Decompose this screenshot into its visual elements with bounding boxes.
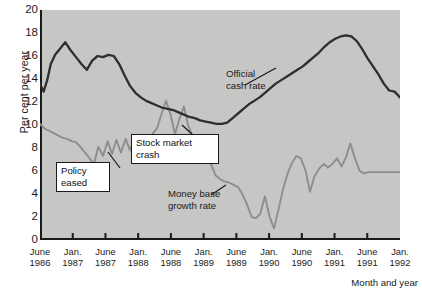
y-tick-label: 16 xyxy=(14,50,38,62)
y-tick-label: 2 xyxy=(14,211,38,223)
y-tick-label: 0 xyxy=(14,234,38,246)
y-tick-label: 4 xyxy=(14,188,38,200)
x-tick-label: Jan. 1989 xyxy=(193,246,214,268)
x-tick-label: Jan. 1987 xyxy=(62,246,83,268)
x-tick-label: June 1991 xyxy=(357,246,378,268)
y-tick-label: 12 xyxy=(14,96,38,108)
x-tick-label: June 1989 xyxy=(226,246,247,268)
x-tick-label: June 1987 xyxy=(95,246,116,268)
x-tick-label: June 1990 xyxy=(291,246,312,268)
x-tick-label: Jan. 1991 xyxy=(324,246,345,268)
annotation-stock-market-crash: Stock market crash xyxy=(131,134,219,164)
x-tick-label: June 1988 xyxy=(160,246,181,268)
x-axis-tickmarks xyxy=(73,233,368,240)
x-tick-label: Jan. 1988 xyxy=(128,246,149,268)
y-tick-label: 10 xyxy=(14,119,38,131)
y-tick-label: 8 xyxy=(14,142,38,154)
y-tick-label: 14 xyxy=(14,73,38,85)
annotation-official-cash-rate: Official cash rate xyxy=(226,68,265,91)
y-tick-label: 6 xyxy=(14,165,38,177)
x-tick-label: Jan. 1992 xyxy=(390,246,411,268)
y-tick-label: 20 xyxy=(14,4,38,16)
y-tick-label: 18 xyxy=(14,27,38,39)
chart-figure: Per cent per year 02468101214161820 June… xyxy=(0,0,422,289)
x-axis-title: Month and year xyxy=(351,277,418,288)
annotation-policy-eased: Policy eased xyxy=(56,162,110,192)
annotation-money-base-growth-rate: Money base growth rate xyxy=(168,188,220,211)
series-line-official-cash-rate xyxy=(40,35,400,124)
x-tick-label: Jan. 1990 xyxy=(259,246,280,268)
x-tick-label: June 1986 xyxy=(30,246,51,268)
